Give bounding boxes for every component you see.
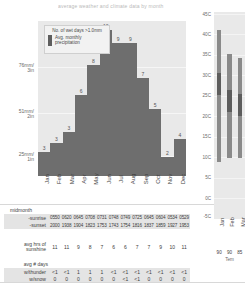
temp-tick-10c: 10C xyxy=(203,155,211,160)
cell-sunshine: 6 xyxy=(108,244,120,250)
midmonth-table: midmonth -sunrise 0550 0620 0645 0708 07… xyxy=(4,207,190,229)
precip-bar xyxy=(50,143,62,176)
month-label-mar: Mar xyxy=(69,174,75,184)
temp-month-axis: Jan Feb Mar xyxy=(214,221,245,247)
chart-legend: No. of wet days >1.0mm Avg. monthly prec… xyxy=(44,25,110,54)
bar-value-label: 9 xyxy=(124,36,136,42)
temp-tick-20c: 20C xyxy=(203,114,211,119)
temp-tick-40c: 40C xyxy=(203,32,211,37)
temp-range-bar xyxy=(217,30,221,162)
bar-value-label: 3 xyxy=(50,136,62,142)
cell-sunrise: 0731 xyxy=(96,215,108,220)
cell-sunshine: 6 xyxy=(120,244,132,250)
cell-sunrise: 0748 xyxy=(108,215,120,220)
temp-tick-25c: 25C xyxy=(203,93,211,98)
table-row-sunshine: avg hrs of sunshine 11 11 9 8 7 6 6 7 7 … xyxy=(4,241,190,253)
legend-wet-days-label: No. of wet days >1.0mm xyxy=(48,28,106,33)
precip-bar xyxy=(124,43,136,176)
precip-bar xyxy=(38,152,50,176)
y-tick-25mm: 25mm/ 1in xyxy=(0,152,34,163)
table-row-sunset: -sunset 2000 1938 1904 1823 1753 1743 17… xyxy=(4,222,190,230)
midmonth-label: midmonth xyxy=(4,207,190,214)
cell-sunrise: 0708 xyxy=(84,215,96,220)
cell-sunrise: 0550 xyxy=(49,215,61,220)
temp-plot-area xyxy=(214,12,245,219)
sunshine-table: avg hrs of sunshine 11 11 9 8 7 6 6 7 7 … xyxy=(4,241,190,253)
cell-sunrise: 0645 xyxy=(143,215,155,220)
cell-sunset: 2000 xyxy=(49,223,61,228)
cell-sunset: 1927 xyxy=(167,223,179,228)
temp-footer-cell: 85 xyxy=(235,250,245,255)
temp-footer-values: 90 90 85 xyxy=(214,250,245,255)
cell-sunshine: 10 xyxy=(167,244,179,250)
cell-sunshine: 9 xyxy=(73,244,85,250)
row-label-sunrise: -sunrise xyxy=(4,215,49,221)
cell-sunset: 1743 xyxy=(108,223,120,228)
temp-tick-35c: 35C xyxy=(203,52,211,57)
precipitation-chart: 76mm/ 3in 51mm/ 2in 25mm/ 1in 3 3 3 xyxy=(0,11,192,205)
temp-tick-15c: 15C xyxy=(203,134,211,139)
temp-tick-neg5c: -5C xyxy=(204,214,211,219)
precip-bar xyxy=(174,139,186,176)
temp-y-axis: 45C 40C 35C 30C 25C 20C 15C 10C 5C 0C -5… xyxy=(192,12,213,219)
cell-sunshine: 11 xyxy=(61,244,73,250)
month-label-oct: Oct xyxy=(155,174,161,183)
temp-col-jan xyxy=(214,12,224,219)
days-label: avg # days xyxy=(4,261,48,268)
cell-thunder: 1 xyxy=(73,269,85,275)
precip-bar xyxy=(63,132,75,176)
bar-col-dec: 4 xyxy=(174,21,186,176)
cell-sunrise: 0604 xyxy=(155,215,167,220)
cell-thunder: <1 xyxy=(49,269,61,275)
temp-tick-45c: 45C xyxy=(203,12,211,17)
temp-avg-band xyxy=(217,73,221,95)
bar-col-nov: 2 xyxy=(161,21,173,176)
temp-avg-band xyxy=(227,90,231,112)
legend-precip-label: Avg. monthly precipitation xyxy=(55,35,106,45)
temperature-chart: 45C 40C 35C 30C 25C 20C 15C 10C 5C 0C -5… xyxy=(192,8,245,290)
temp-col-mar xyxy=(235,12,245,219)
cell-sunshine: 9 xyxy=(155,244,167,250)
table-row-thunder: w/thunder <1 <1 1 1 1 <1 <1 <1 <1 <1 <1 … xyxy=(4,268,190,276)
bar-value-label: 3 xyxy=(38,145,50,151)
cell-sunset: 1859 xyxy=(155,223,167,228)
cell-sunrise: 0645 xyxy=(73,215,85,220)
precip-bar xyxy=(149,109,161,176)
temp-bars xyxy=(214,12,245,219)
bar-col-oct: 5 xyxy=(149,21,161,176)
month-label-sep: Sep xyxy=(143,174,149,185)
temp-range-bar xyxy=(227,54,231,158)
cell-thunder: 1 xyxy=(84,269,96,275)
bar-value-label: 8 xyxy=(87,58,99,64)
row-label-thunder: w/thunder xyxy=(4,269,49,275)
cell-sunshine: 7 xyxy=(143,244,155,250)
cell-sunrise: 0534 xyxy=(167,215,179,220)
cell-sunrise: 0620 xyxy=(61,215,73,220)
row-label-sunset: -sunset xyxy=(4,222,49,228)
temp-tick-0c: 0C xyxy=(205,196,211,201)
cell-sunset: 1953 xyxy=(178,223,190,228)
precip-bar xyxy=(137,78,149,176)
cell-sunset: 1816 xyxy=(131,223,143,228)
temp-range-bar xyxy=(238,58,242,158)
temp-avg-band xyxy=(238,94,242,116)
month-label-feb: Feb xyxy=(56,174,62,184)
cell-sunshine: 7 xyxy=(96,244,108,250)
cell-thunder: <1 xyxy=(155,269,167,275)
cell-sunset: 1837 xyxy=(143,223,155,228)
temp-footer-cell: 90 xyxy=(214,250,224,255)
month-label-nov: Nov xyxy=(167,174,173,185)
legend-swatch-icon xyxy=(48,35,52,46)
row-label-sunshine: avg hrs of sunshine xyxy=(4,242,49,253)
cell-sunrise: 0529 xyxy=(178,215,190,220)
bar-value-label: 7 xyxy=(137,71,149,77)
y-tick-76mm: 76mm/ 3in xyxy=(0,63,34,74)
bar-value-label: 6 xyxy=(75,88,87,94)
bar-value-label: 3 xyxy=(63,125,75,131)
temp-tick-5c: 5C xyxy=(205,175,211,180)
cell-sunshine: 8 xyxy=(84,244,96,250)
temp-col-feb xyxy=(224,12,234,219)
days-table: avg # days w/thunder <1 <1 1 1 1 <1 <1 <… xyxy=(4,261,190,283)
table-row-sunrise: -sunrise 0550 0620 0645 0708 0731 0748 0… xyxy=(4,214,190,222)
cell-sunset: 1938 xyxy=(61,223,73,228)
